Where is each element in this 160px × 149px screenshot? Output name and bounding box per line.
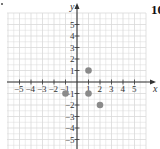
y-tick-label: −2 [65, 100, 75, 110]
y-tick-label: −4 [65, 123, 75, 133]
coordinate-plane: xy −5−4−3−2−112345−5−4−3−2−112345 [0, 0, 160, 149]
y-tick-label: 5 [70, 20, 75, 30]
data-point [62, 90, 69, 97]
data-point [85, 90, 92, 97]
x-tick-label: 2 [98, 84, 103, 94]
y-tick-label: 1 [70, 66, 75, 76]
x-tick-label: −4 [26, 84, 36, 94]
data-point [97, 102, 104, 109]
y-tick-label: −3 [65, 112, 75, 122]
y-tick-label: 2 [70, 54, 75, 64]
y-tick-label: −5 [65, 135, 75, 145]
x-tick-label: −2 [49, 84, 59, 94]
x-tick-label: 5 [132, 84, 137, 94]
data-point [85, 67, 92, 74]
y-tick-label: 3 [70, 43, 75, 53]
y-axis-arrow [75, 3, 80, 9]
y-tick-label: 4 [70, 31, 75, 41]
y-axis-label: y [69, 1, 75, 12]
x-axis-label: x [152, 83, 158, 94]
x-tick-label: −5 [14, 84, 24, 94]
x-tick-label: 4 [121, 84, 126, 94]
x-tick-label: 3 [109, 84, 114, 94]
x-tick-label: −3 [37, 84, 47, 94]
